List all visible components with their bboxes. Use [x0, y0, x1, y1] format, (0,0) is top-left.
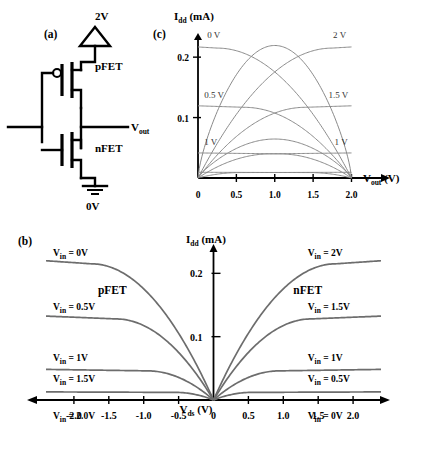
panel-b-series-label: Vin = 0.5V: [53, 302, 95, 315]
panel-c-series-label: 0.5 V: [204, 90, 224, 100]
panel-b-series-label: Vin = 2V: [308, 248, 343, 261]
ground-label: 0V: [86, 200, 100, 212]
panel-c-xtick: 1.5: [307, 190, 319, 200]
panel-a-label: (a): [44, 28, 58, 41]
output-label: Vout: [131, 121, 150, 136]
panel-c-series: [198, 106, 351, 178]
panel-c-series: [198, 45, 351, 178]
panel-b-xtick: -1.5: [101, 410, 117, 421]
panel-b-group-label: pFET: [98, 284, 127, 297]
panel-b-xtick: 2.0: [347, 410, 360, 421]
panel-b-group-labels: pFETnFET: [98, 284, 323, 297]
panel-b-series-label: Vin = 1.5V: [53, 374, 95, 387]
panel-b-xtick: 0.5: [242, 410, 255, 421]
panel-c-ylabel: Idd (mA): [174, 10, 214, 25]
supply-triangle-icon: [80, 27, 110, 46]
panel-b-ytick: 0.2: [190, 268, 203, 279]
panel-b-ytick: 0.1: [190, 332, 203, 343]
panel-c-series: [198, 47, 351, 178]
panel-b-label: (b): [18, 235, 32, 248]
panel-c-chart: (c) Idd (mA) 0.10.200.51.01.52.0 0 V0.5 …: [150, 0, 400, 215]
panel-c-series-label: 1 V: [335, 137, 349, 147]
panel-c-series-label: 2 V: [333, 30, 347, 40]
panel-c-series: [198, 106, 351, 178]
panel-b-series-label: Vin = 0V: [53, 248, 88, 261]
panel-c-series-label: 0 V: [207, 30, 221, 40]
panel-c-series-label: 1.5 V: [328, 90, 348, 100]
panel-b-ylabel: Idd (mA): [186, 233, 226, 248]
panel-c-xtick: 0.5: [230, 190, 242, 200]
panel-b-series-label: Vin = 1V: [308, 353, 343, 366]
pfet-label: pFET: [95, 60, 123, 72]
panel-b-series-label: Vin = 1.5V: [308, 302, 350, 315]
panel-c-series: [198, 47, 351, 178]
panel-b-series-label: Vin = 0V: [308, 411, 343, 424]
panel-b-series: [214, 392, 382, 400]
nfet-label: nFET: [95, 142, 123, 154]
panel-b-series: [46, 392, 214, 400]
panel-b-series-label: Vin = 1V: [53, 353, 88, 366]
panel-c-xlabel: Vout (V): [363, 172, 400, 187]
panel-c-ytick: 0.1: [177, 114, 189, 124]
pfet-gate-wire: [42, 73, 53, 142]
panel-b-series-label: Vin = 2.0V: [53, 411, 95, 424]
panel-b-series: [214, 316, 382, 400]
panel-c-curves: [198, 45, 351, 178]
panel-c-ytick: 0.2: [177, 53, 189, 63]
panel-c-xtick: 1.0: [269, 190, 281, 200]
panel-b-group-label: nFET: [293, 284, 322, 296]
panel-b-series: [214, 369, 382, 400]
panel-c-label: (c): [153, 28, 166, 41]
panel-b-series: [214, 261, 382, 400]
supply-wire: [81, 46, 95, 70]
panel-c-xtick: 0: [196, 190, 201, 200]
panel-b-xtick: 1.0: [277, 410, 290, 421]
figure-root: (a) 2V pFET Vin Vout: [0, 0, 440, 453]
panel-b-chart: (b) Idd (mA) 0.10.2-2.0-1.5-1.0-0.500.51…: [0, 220, 440, 453]
panel-b-series-label: Vin = 0.5V: [308, 374, 350, 387]
supply-label: 2V: [95, 10, 109, 22]
panel-c-xtick: 2.0: [346, 190, 358, 200]
panel-c-axes: [193, 33, 390, 182]
panel-c-series-label: 1 V: [204, 137, 218, 147]
panel-b-xtick: -1.0: [136, 410, 152, 421]
